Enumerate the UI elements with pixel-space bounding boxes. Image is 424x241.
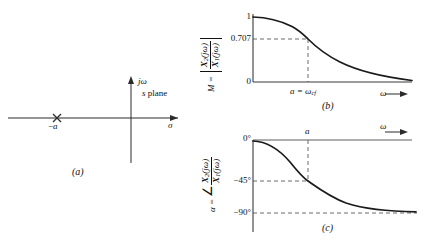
panel-b-ratio-fraction: X2(jω) X1(jω) [200, 41, 222, 69]
panel-b-ytick-0707: 0.707 [214, 33, 251, 43]
panel-b-num-arg: (jω) [199, 43, 209, 58]
panel-b-cutoff-label-main: a = ω [290, 86, 311, 96]
panel-b-plot [244, 5, 424, 105]
panel-a-plot [0, 0, 212, 200]
panel-c-num-main: X [200, 177, 210, 183]
panel-b-ytick-1: 1 [233, 11, 251, 21]
panel-b-numerator: X2(jω) [200, 41, 210, 69]
panel-b-omega-label: ω [380, 88, 386, 98]
panel-b-denominator: X1(jω) [210, 41, 221, 69]
sigma-axis-label: σ [168, 120, 172, 130]
panel-c-ytick-45: −45° [219, 175, 251, 185]
panel-c-phase-curve [253, 141, 416, 212]
figure-root: jω σ s plane −a (a) M = X2(jω) X1(jω) 1 … [0, 0, 424, 241]
panel-b-den-main: X [210, 61, 220, 67]
jomega-axis-arrowhead [128, 76, 134, 84]
panel-c-ytick-90: −90° [219, 207, 251, 217]
panel-c-ytick-0: 0° [231, 133, 251, 143]
panel-b-cutoff-label: a = ωcf [290, 86, 316, 96]
panel-c-den-arg: (jω) [211, 159, 221, 174]
panel-b-omega-arrowhead [400, 91, 408, 97]
panel-b-ytick-0: 0 [233, 76, 251, 86]
panel-c-num-arg: (jω) [200, 159, 210, 174]
pole-label-symbol: a [53, 121, 58, 131]
panel-a-caption: (a) [72, 166, 84, 177]
panel-b-num-main: X [199, 61, 209, 67]
panel-c-omega-label: ω [380, 121, 386, 131]
s-plane-label: s plane [142, 88, 167, 98]
panel-c-omega-arrowhead [400, 129, 408, 135]
panel-b-den-sub: 1 [214, 58, 221, 61]
panel-c-plot [244, 128, 424, 238]
panel-b-cutoff-label-sub: cf [311, 89, 316, 96]
jomega-axis-label: jω [138, 76, 147, 86]
panel-b-magnitude-curve [253, 17, 412, 81]
panel-c-numerator: X2(jω) [201, 157, 211, 185]
panel-b-y-axis-label: M = X2(jω) X1(jω) [200, 36, 222, 92]
angle-icon: ∠ [201, 185, 214, 197]
panel-c-a-label: a [305, 126, 310, 136]
panel-c-caption: (c) [322, 222, 333, 233]
panel-c-num-sub: 2 [203, 174, 210, 177]
panel-c-y-axis-lead: α = [207, 199, 217, 212]
panel-b-num-sub: 2 [202, 58, 209, 61]
pole-label: −a [48, 121, 58, 131]
panel-b-caption: (b) [322, 100, 334, 111]
panel-b-den-arg: (jω) [210, 43, 220, 58]
s-plane-label-rest: plane [146, 88, 168, 98]
panel-b-y-axis-lead: M = [206, 76, 216, 92]
